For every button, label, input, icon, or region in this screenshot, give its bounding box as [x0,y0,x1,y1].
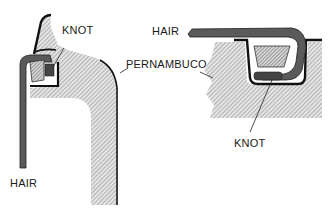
right-section [188,28,322,132]
left-plug [30,60,44,82]
left-knot-label: KNOT [62,25,93,36]
left-knot [45,64,54,76]
right-knot [254,72,282,80]
diagram-canvas: KNOT HAIR PERNAMBUCO HAIR KNOT [0,0,331,217]
right-knot-label: KNOT [234,138,265,149]
pernambuco-label: PERNAMBUCO [126,59,207,70]
right-plug [254,46,290,67]
right-hair-label: HAIR [152,26,179,37]
left-wood-body [30,14,116,205]
left-hair-label: HAIR [10,178,37,189]
